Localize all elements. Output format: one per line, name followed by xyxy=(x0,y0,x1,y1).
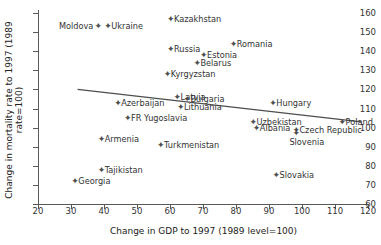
data-point-label: Tajikistan xyxy=(105,166,143,174)
diamond-marker-icon xyxy=(167,16,173,22)
diamond-marker-icon xyxy=(177,104,183,110)
data-point-label: Czech Republic xyxy=(299,126,361,134)
diamond-marker-icon xyxy=(124,115,130,121)
data-point-label: FR Yugoslavia xyxy=(131,114,187,122)
diamond-marker-icon xyxy=(269,100,275,106)
data-point-label: Ukraine xyxy=(111,22,143,30)
data-point-label: Belarus xyxy=(200,59,231,67)
data-point-label: Armenia xyxy=(105,135,139,143)
data-point-label: Kazakhstan xyxy=(174,15,221,23)
diamond-marker-icon xyxy=(98,136,104,142)
diamond-marker-icon xyxy=(164,71,170,77)
diamond-marker-icon xyxy=(114,100,120,106)
y-axis-title: Change in mortality rate to 1997 (1989 r… xyxy=(4,10,24,210)
diamond-marker-icon xyxy=(157,142,163,148)
diamond-marker-icon xyxy=(71,178,77,184)
data-point-label: Georgia xyxy=(78,177,110,185)
diamond-marker-icon xyxy=(292,130,298,136)
data-point-label: Moldova xyxy=(59,22,93,30)
diamond-marker-icon xyxy=(98,167,104,173)
diamond-marker-icon xyxy=(230,41,236,47)
data-point-label: Romania xyxy=(237,40,273,48)
data-point-label: Kyrgyzstan xyxy=(171,70,216,78)
data-point-label: Hungary xyxy=(276,99,311,107)
diamond-marker-icon xyxy=(193,60,199,66)
diamond-marker-icon xyxy=(253,125,259,131)
x-axis-title: Change in GDP to 1997 (1989 level=100) xyxy=(38,226,369,236)
data-point-label: Turkmenistan xyxy=(164,141,219,149)
data-point-label: Lithuania xyxy=(184,103,222,111)
diamond-marker-icon xyxy=(104,23,110,29)
data-point-label: Slovenia xyxy=(289,138,324,146)
diamond-marker-icon xyxy=(174,94,180,100)
diamond-marker-icon xyxy=(339,119,345,125)
data-point-label: Azerbaijan xyxy=(121,99,164,107)
diamond-marker-icon xyxy=(273,172,279,178)
diamond-marker-icon xyxy=(94,23,100,29)
data-point-label: Albania xyxy=(260,124,291,132)
diamond-marker-icon xyxy=(167,46,173,52)
data-point-label: Slovakia xyxy=(280,171,314,179)
data-point-label: Russia xyxy=(174,45,200,53)
